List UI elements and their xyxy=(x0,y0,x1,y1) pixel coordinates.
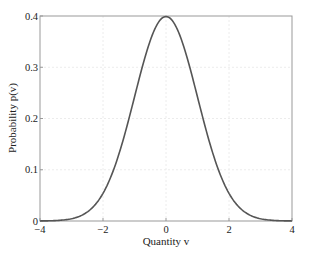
x-tick-label: −2 xyxy=(97,224,108,235)
chart: −4−202400.10.20.30.4 Quantity v Probabil… xyxy=(0,0,309,260)
y-tick-label: 0.2 xyxy=(25,113,38,124)
y-axis-label: Probability p(v) xyxy=(6,83,19,153)
y-tick-label: 0.1 xyxy=(25,164,38,175)
x-tick-label: 4 xyxy=(289,224,295,235)
x-tick-label: 2 xyxy=(226,224,231,235)
axis-ticks: −4−202400.10.20.30.4 xyxy=(25,11,296,236)
x-tick-label: 0 xyxy=(163,224,168,235)
y-tick-label: 0 xyxy=(33,216,38,227)
grid-lines xyxy=(40,16,292,221)
x-axis-label: Quantity v xyxy=(143,235,190,247)
y-tick-label: 0.3 xyxy=(25,62,38,73)
y-tick-label: 0.4 xyxy=(25,11,39,22)
